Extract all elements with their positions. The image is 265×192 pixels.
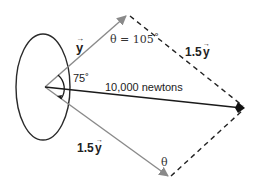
lower-angle-label: θ (161, 156, 168, 169)
lower-vector-label-var: y (95, 141, 102, 155)
upper-dashed-label-var: y (203, 45, 210, 59)
upper-angle-label: θ = 105˚ (110, 33, 159, 46)
ellipse-object (16, 34, 70, 140)
resultant-label: 10,000 newtons (105, 81, 183, 93)
lower-vector-label-arrow: → (96, 136, 103, 143)
resultant-arrowhead-icon (235, 102, 245, 113)
upper-vector-label-arrow: → (76, 34, 84, 43)
vector-diagram: y → θ = 105˚ 1.5 y → 75˚ 10,000 newtons … (0, 0, 265, 192)
inner-angle-label: 75˚ (73, 72, 89, 84)
lower-dashed-side (171, 110, 243, 176)
upper-dashed-label-arrow: → (203, 40, 210, 47)
lower-vector-label-coef: 1.5 (77, 141, 94, 155)
lower-vector-arrow (45, 87, 168, 176)
upper-dashed-label-coef: 1.5 (185, 45, 202, 59)
